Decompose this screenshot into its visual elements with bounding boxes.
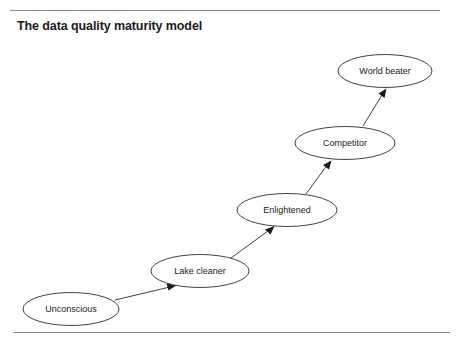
edge-enlightened-competitor xyxy=(306,161,332,195)
edge-lake-cleaner-enlightened xyxy=(231,226,275,258)
node-world-beater[interactable]: World beater xyxy=(338,55,432,88)
edge-line xyxy=(306,164,328,194)
node-label: World beater xyxy=(359,66,410,76)
node-lake-cleaner[interactable]: Lake cleaner xyxy=(151,255,249,288)
node-unconscious[interactable]: Unconscious xyxy=(23,293,119,326)
edge-line xyxy=(363,93,384,127)
edge-line xyxy=(231,230,270,259)
edge-line xyxy=(115,287,172,301)
node-label: Competitor xyxy=(323,138,367,148)
node-label: Unconscious xyxy=(45,304,97,314)
arrowhead-icon xyxy=(265,226,275,235)
node-label: Enlightened xyxy=(263,205,311,215)
node-layer: Unconscious Lake cleaner Enlightened Com… xyxy=(23,55,432,326)
edge-unconscious-lake-cleaner xyxy=(115,284,177,301)
figure-canvas: The data quality maturity model xyxy=(0,0,457,346)
node-label: Lake cleaner xyxy=(174,266,226,276)
arrowhead-icon xyxy=(379,89,387,99)
bottom-rule xyxy=(13,332,450,333)
edge-competitor-world-beater xyxy=(363,89,387,127)
maturity-model-diagram: Unconscious Lake cleaner Enlightened Com… xyxy=(0,0,457,346)
node-competitor[interactable]: Competitor xyxy=(295,127,395,160)
node-enlightened[interactable]: Enlightened xyxy=(237,194,337,227)
arrowhead-icon xyxy=(323,161,332,170)
